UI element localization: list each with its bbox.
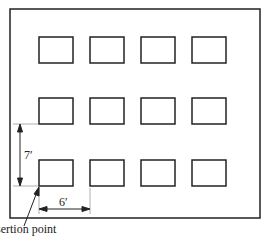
array-box	[141, 37, 175, 63]
box-grid	[39, 37, 226, 186]
insertion-point-label: Insertion point	[0, 222, 56, 237]
array-diagram	[0, 0, 272, 237]
array-box	[39, 160, 73, 186]
insertion-point-leader	[24, 187, 39, 226]
array-box	[141, 98, 175, 124]
array-box	[39, 98, 73, 124]
array-box	[90, 37, 124, 63]
array-box	[192, 98, 226, 124]
array-box	[90, 160, 124, 186]
array-box	[192, 160, 226, 186]
vertical-spacing-label: 7′	[24, 148, 33, 163]
array-box	[39, 37, 73, 63]
array-box	[192, 37, 226, 63]
array-box	[141, 160, 175, 186]
horizontal-spacing-label: 6′	[59, 195, 68, 210]
array-box	[90, 98, 124, 124]
